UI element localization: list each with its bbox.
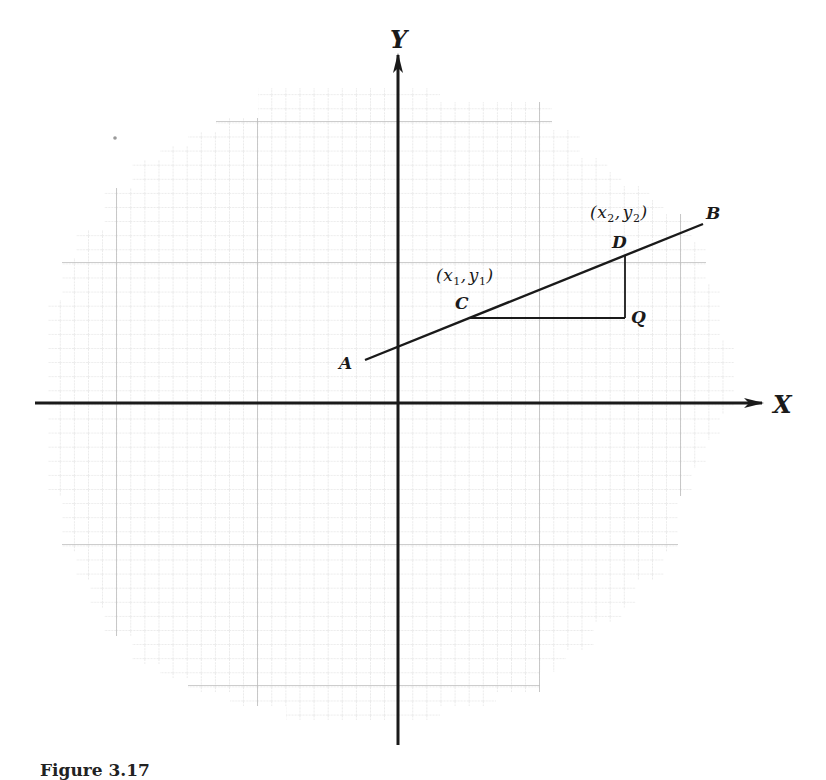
paper-speck — [113, 136, 117, 140]
point-c-label: C — [455, 295, 469, 312]
coord-sub: 2 — [633, 212, 641, 225]
point-q-label: Q — [631, 309, 646, 326]
coord-sub: 1 — [453, 275, 461, 288]
point-d-coordinates: (x2, y2) — [590, 204, 648, 224]
coord-var-y: y — [469, 265, 479, 285]
coord-var-x: x — [597, 202, 607, 222]
figure-caption: Figure 3.17 — [40, 760, 150, 780]
coord-sub: 2 — [607, 212, 615, 225]
point-a-label: A — [339, 355, 352, 372]
x-axis-label: X — [773, 393, 792, 417]
coord-sub: 1 — [479, 275, 487, 288]
point-c-coordinates: (x1, y1) — [436, 267, 494, 287]
point-d-label: D — [612, 234, 627, 251]
coord-var-y: y — [623, 202, 633, 222]
coord-var-x: x — [443, 265, 453, 285]
y-axis-label: Y — [390, 28, 407, 52]
point-b-label: B — [706, 205, 720, 222]
